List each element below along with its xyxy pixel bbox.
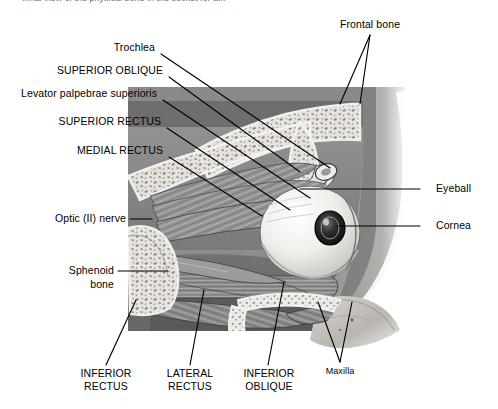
label-sphenoid-bone-line1: Sphenoid	[0, 264, 114, 276]
label-inferior-rectus-line2: RECTUS	[60, 380, 152, 392]
label-maxilla: Maxilla	[300, 366, 380, 376]
label-inferior-oblique-line2: OBLIQUE	[222, 380, 316, 392]
leader-inferior-rectus	[106, 300, 136, 365]
label-superior-oblique: SUPERIOR OBLIQUE	[0, 64, 163, 76]
label-levator-palpebrae-superioris: Levator palpebrae superioris	[0, 87, 157, 99]
label-eyeball: Eyeball	[436, 182, 471, 194]
label-frontal-bone: Frontal bone	[310, 18, 430, 30]
orbit-sagittal-artwork	[0, 0, 498, 409]
label-superior-rectus: SUPERIOR RECTUS	[0, 115, 161, 127]
label-lateral-rectus-line2: RECTUS	[146, 380, 234, 392]
label-sphenoid-bone-line2: bone	[0, 278, 114, 290]
label-trochlea: Trochlea	[0, 41, 155, 53]
anatomy-figure: ...nal view of the physical bone in the …	[0, 0, 498, 409]
label-medial-rectus: MEDIAL RECTUS	[0, 144, 163, 156]
label-optic-nerve: Optic (II) nerve	[0, 212, 126, 224]
cornea	[315, 211, 345, 245]
label-cornea: Cornea	[436, 219, 471, 231]
label-lateral-rectus-line1: LATERAL	[146, 367, 234, 379]
label-inferior-rectus-line1: INFERIOR	[60, 367, 152, 379]
